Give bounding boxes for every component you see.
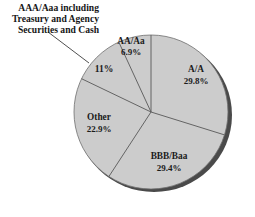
pie-chart-svg: AA/Aa 6.9% A/A 29.8% BBB/Baa 29.4% Other…	[0, 0, 255, 217]
slice-label-other-value: 22.9%	[87, 124, 112, 134]
annotation-line-2: Treasury and Agency	[12, 13, 99, 24]
annotation-leader-line	[48, 32, 89, 63]
slice-label-bbb-name: BBB/Baa	[151, 151, 188, 161]
pie-chart-figure: AA/Aa 6.9% A/A 29.8% BBB/Baa 29.4% Other…	[0, 0, 255, 217]
slice-label-other-name: Other	[87, 112, 111, 122]
slice-label-bbb-value: 29.4%	[157, 163, 182, 173]
slice-label-aa-name: AA/Aa	[117, 36, 145, 46]
slice-label-aaa-value: 11%	[95, 63, 114, 74]
annotation-line-1: AAA/Aaa including	[18, 2, 99, 13]
slice-label-a-name: A/A	[188, 64, 204, 74]
slice-label-a-value: 29.8%	[184, 76, 209, 86]
annotation-line-3: Securities and Cash	[18, 24, 100, 35]
slice-label-aa-value: 6.9%	[121, 47, 141, 57]
